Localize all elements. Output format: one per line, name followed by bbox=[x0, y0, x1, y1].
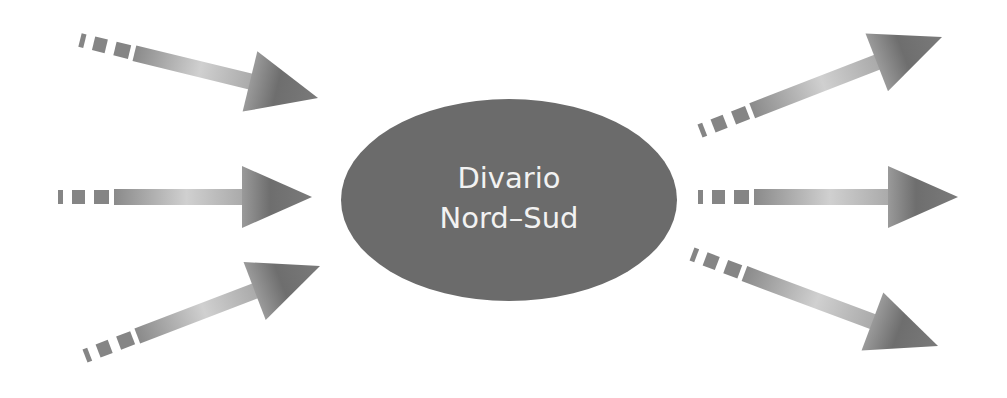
arrow-head-icon bbox=[888, 166, 958, 228]
incoming-arrows bbox=[58, 10, 331, 385]
arrow-dash bbox=[72, 190, 85, 204]
arrow-shaft bbox=[134, 282, 261, 343]
arrow-in-middle bbox=[58, 166, 312, 228]
arrow-out-middle bbox=[698, 166, 958, 228]
arrow-dash bbox=[711, 115, 728, 133]
arrow-dash bbox=[698, 190, 703, 204]
arrow-out-top bbox=[689, 8, 953, 160]
arrow-dash bbox=[116, 331, 135, 349]
arrow-head-icon bbox=[244, 237, 332, 320]
arrow-head-icon bbox=[242, 166, 312, 228]
arrow-dash bbox=[78, 33, 86, 48]
arrow-shaft bbox=[754, 189, 892, 205]
arrow-shaft bbox=[114, 189, 246, 205]
arrow-head-icon bbox=[862, 292, 949, 375]
central-node: Divario Nord–Sud bbox=[341, 99, 677, 301]
arrow-dash bbox=[92, 37, 108, 54]
arrow-shaft bbox=[749, 53, 883, 118]
arrow-dash bbox=[82, 348, 92, 363]
arrow-head-icon bbox=[866, 8, 954, 91]
arrow-in-top bbox=[73, 10, 326, 128]
central-node-label-line2: Nord–Sud bbox=[440, 201, 579, 235]
diagram-canvas: Divario Nord–Sud bbox=[0, 0, 1007, 398]
outgoing-arrows bbox=[681, 8, 958, 375]
arrow-dash bbox=[734, 190, 749, 204]
arrow-in-bottom bbox=[74, 237, 331, 385]
arrow-dash bbox=[690, 247, 700, 262]
arrow-dash bbox=[58, 190, 63, 204]
arrow-dash bbox=[703, 252, 720, 270]
arrow-shaft bbox=[133, 45, 256, 90]
arrow-out-bottom bbox=[681, 225, 949, 375]
arrow-dash bbox=[96, 340, 113, 358]
arrow-dash bbox=[113, 42, 131, 59]
arrow-dash bbox=[731, 106, 750, 124]
arrow-dash bbox=[94, 190, 109, 204]
arrow-shaft bbox=[742, 266, 879, 330]
arrow-dash bbox=[723, 260, 742, 278]
arrow-head-icon bbox=[243, 51, 326, 128]
central-ellipse bbox=[341, 99, 677, 301]
central-node-label-line1: Divario bbox=[457, 161, 560, 195]
arrow-dash bbox=[712, 190, 725, 204]
arrow-dash bbox=[697, 123, 707, 138]
